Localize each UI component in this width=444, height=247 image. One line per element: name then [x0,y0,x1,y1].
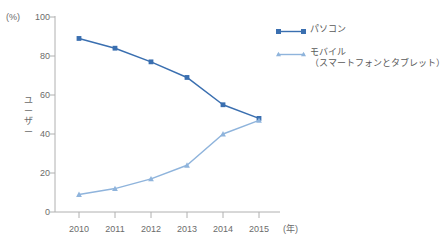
series-line-1 [79,120,259,194]
legend-label-pc: パソコン [310,24,346,34]
legend-swatch-pc [276,28,306,35]
legend-item-mobile: モバイル （スマートフォンとタブレット） [276,47,444,69]
legend: パソコン モバイル （スマートフォンとタブレット） [276,24,444,81]
data-point-0-1 [113,46,118,51]
legend-swatch-mobile [276,51,306,58]
data-point-0-3 [185,75,190,80]
data-point-0-4 [221,102,226,107]
legend-label-mobile: モバイル [310,47,346,57]
series-layer [76,36,262,197]
data-point-0-2 [149,59,154,64]
legend-sublabel-mobile: （スマートフォンとタブレット） [310,58,444,69]
legend-item-pc: パソコン [276,24,444,35]
series-line-0 [79,38,259,118]
data-point-0-0 [77,36,82,41]
